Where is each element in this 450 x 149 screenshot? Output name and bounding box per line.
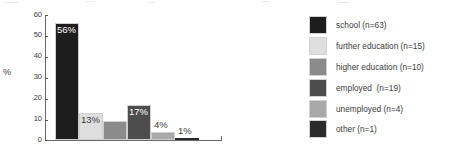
legend-swatch-icon <box>309 37 327 55</box>
legend-item-further-education: further education (n=15) <box>309 36 450 57</box>
bar-unemployed <box>151 132 175 140</box>
bar-chart-figure: % 60 50 40 30 20 10 0 56% 13% 9% 17% 4% … <box>0 0 450 149</box>
y-axis-tick-label: 60 <box>26 11 42 19</box>
y-axis-tick-label: 0 <box>26 136 42 144</box>
legend-item-label: employed (n=19) <box>336 83 401 93</box>
scan-artifact <box>338 2 349 3</box>
legend-item-label: further education (n=15) <box>336 41 425 51</box>
bar-school <box>55 23 79 140</box>
y-axis-title: % <box>3 67 11 77</box>
legend-item-label: school (n=63) <box>336 20 387 30</box>
bar-value-label: 13% <box>81 115 100 125</box>
bar-value-label: 1% <box>178 126 192 136</box>
x-axis-line <box>45 140 222 141</box>
legend-swatch-icon <box>309 16 327 34</box>
bar-higher-education <box>103 121 127 140</box>
plot-area: % 60 50 40 30 20 10 0 56% 13% 9% 17% 4% … <box>0 0 232 149</box>
y-axis-tick-label: 10 <box>26 115 42 123</box>
bar-value-label: 9% <box>106 109 120 119</box>
bar-other <box>175 138 199 140</box>
y-axis-tick-mark <box>45 57 48 58</box>
legend-item-label: higher education (n=10) <box>336 62 424 72</box>
bar-value-label: 4% <box>154 120 168 130</box>
scan-artifact <box>262 1 270 2</box>
y-axis-tick-mark <box>45 36 48 37</box>
y-axis-tick-label: 40 <box>26 52 42 60</box>
legend-swatch-icon <box>309 79 327 97</box>
legend-swatch-icon <box>309 100 327 118</box>
legend: school (n=63) further education (n=15) h… <box>309 15 450 140</box>
y-axis-tick-label: 20 <box>26 94 42 102</box>
y-axis-tick-mark <box>45 15 48 16</box>
x-axis-end-tick <box>221 136 222 141</box>
y-axis-tick-label: 50 <box>26 31 42 39</box>
y-axis-tick-mark <box>45 99 48 100</box>
legend-item-higher-education: higher education (n=10) <box>309 57 450 78</box>
y-axis-tick-mark <box>45 120 48 121</box>
legend-item-school: school (n=63) <box>309 15 450 36</box>
legend-item-label: other (n=1) <box>336 124 377 134</box>
bar-value-label: 56% <box>57 25 76 35</box>
y-axis-tick-mark <box>45 78 48 79</box>
legend-item-unemployed: unemployed (n=4) <box>309 98 450 119</box>
legend-swatch-icon <box>309 58 327 76</box>
legend-item-employed: employed (n=19) <box>309 77 450 98</box>
legend-item-label: unemployed (n=4) <box>336 104 403 114</box>
y-axis-tick-label: 30 <box>26 73 42 81</box>
legend-swatch-icon <box>309 120 327 138</box>
bar-value-label: 17% <box>129 107 148 117</box>
legend-item-other: other (n=1) <box>309 119 450 140</box>
y-axis-tick-mark <box>45 140 48 141</box>
